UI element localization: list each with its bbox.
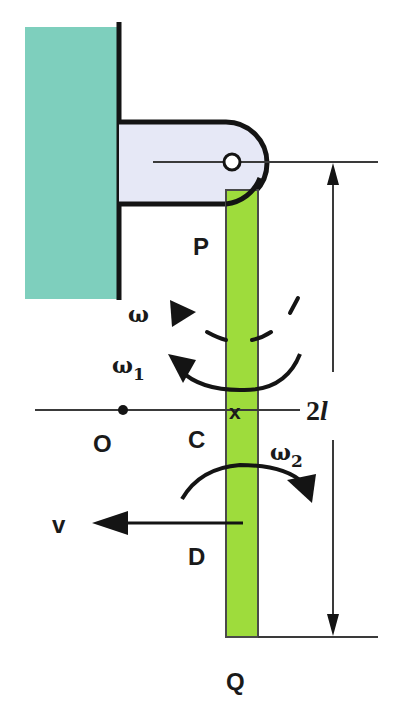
wall <box>25 27 117 299</box>
omega2-arrow-icon <box>287 474 316 503</box>
label-center-mark: x <box>229 400 241 423</box>
label-origin-o: O <box>93 430 112 457</box>
label-omega2: ω2 <box>270 439 303 471</box>
omega-dashed-arc-tick <box>290 298 298 313</box>
omega1-symbol: ω <box>112 352 133 378</box>
label-omega1: ω1 <box>112 352 145 384</box>
label-point-d: D <box>188 543 205 570</box>
velocity-arrow-icon <box>92 511 128 535</box>
pivot-hole <box>224 154 240 170</box>
omega2-subscript: 2 <box>291 451 303 471</box>
origin-point <box>118 405 128 415</box>
dimension-arrow-down-icon <box>327 614 339 636</box>
length-variable: l <box>320 395 328 426</box>
omega1-subscript: 1 <box>133 364 145 384</box>
omega2-symbol: ω <box>270 439 291 465</box>
label-pivot-p: P <box>193 233 209 260</box>
rod-pivot-diagram: P ω ω1 x C O ω2 v D Q 2l <box>0 0 414 714</box>
label-omega: ω <box>128 301 149 327</box>
length-number: 2 <box>306 395 320 426</box>
dimension-arrow-up-icon <box>327 163 339 185</box>
omega-dashed-arc-left <box>207 332 226 340</box>
omega-arrow-icon <box>170 300 196 327</box>
label-velocity-v: v <box>52 511 66 538</box>
label-center-c: C <box>188 426 205 453</box>
label-end-q: Q <box>226 668 245 695</box>
label-length-2l: 2l <box>306 395 328 426</box>
